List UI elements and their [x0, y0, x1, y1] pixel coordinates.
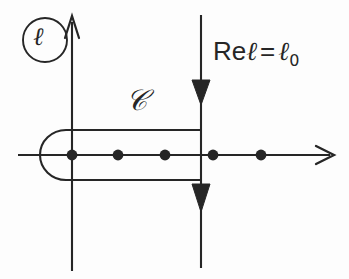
pole-marker [113, 150, 124, 161]
contour-label-c: 𝒞 [126, 86, 147, 115]
axis-label-circle [23, 18, 67, 62]
reline-symbol-text: ℓ [246, 36, 257, 66]
reline-value-subscript: 0 [289, 51, 299, 70]
reline-equals-sign: = [257, 36, 278, 66]
contour-lower-arrowhead-icon [192, 184, 210, 212]
complex-plane-contour-figure: ℓ 𝒞 Reℓ=ℓ0 [0, 0, 349, 279]
pole-marker [160, 150, 171, 161]
reline-value-symbol: ℓ [278, 36, 289, 66]
reline-prefix-text: Re [213, 36, 246, 66]
axis-label-l: ℓ [33, 24, 43, 49]
pole-marker [67, 150, 78, 161]
contour-upper-arrowhead-icon [192, 80, 210, 105]
pole-marker [208, 150, 219, 161]
pole-marker [256, 150, 267, 161]
re-l-equals-l0-label: Reℓ=ℓ0 [213, 38, 299, 69]
